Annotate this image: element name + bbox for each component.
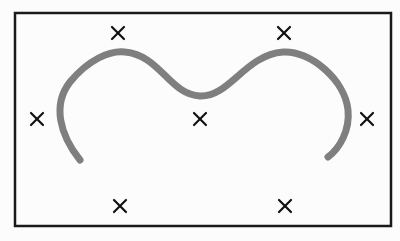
cross-markers [31, 27, 373, 212]
cross-marker-icon [361, 113, 373, 125]
cross-marker-icon [278, 27, 290, 39]
cross-marker-icon [279, 200, 291, 212]
cross-marker-icon [114, 200, 126, 212]
frame-border [15, 13, 391, 226]
cross-marker-icon [194, 113, 206, 125]
cross-marker-icon [31, 113, 43, 125]
diagram-canvas [0, 0, 400, 241]
curve-path [60, 52, 348, 160]
cross-marker-icon [112, 27, 124, 39]
